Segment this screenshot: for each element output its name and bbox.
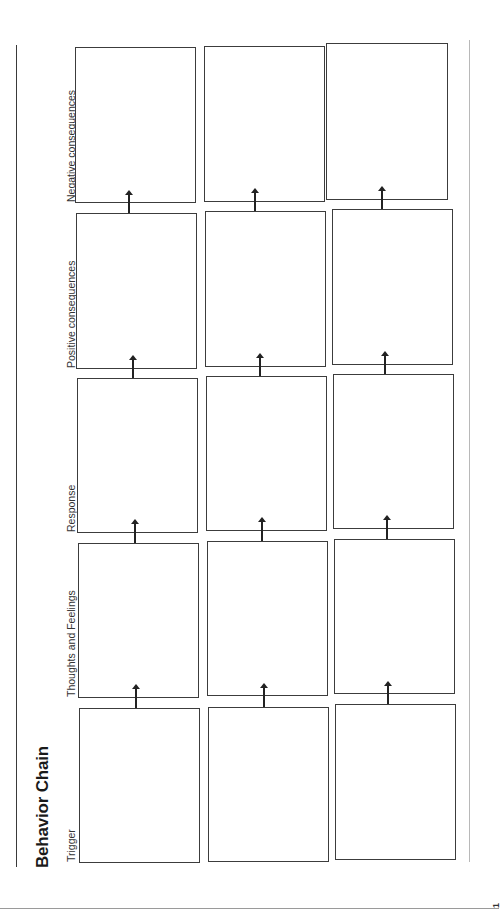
cell-row2-thoughts-feelings[interactable] [207, 541, 328, 696]
cell-row1-trigger[interactable] [79, 708, 200, 863]
left-divider-rule [16, 45, 17, 867]
arrow-up-icon [386, 519, 388, 539]
arrow-up-icon [134, 523, 136, 543]
cell-row2-response[interactable] [206, 376, 327, 531]
arrow-up-icon [384, 355, 386, 374]
cell-row3-negative-consequences[interactable] [326, 43, 448, 200]
arrow-up-icon [135, 688, 137, 708]
column-label-thoughts-feelings: Thoughts and Feelings [66, 590, 77, 697]
cell-row3-thoughts-feelings[interactable] [334, 539, 455, 694]
page-number: 1 [491, 903, 501, 908]
column-label-trigger: Trigger [66, 829, 77, 862]
right-margin-rule [469, 40, 470, 862]
cell-row1-thoughts-feelings[interactable] [78, 543, 199, 698]
arrow-up-icon [387, 685, 389, 704]
arrow-up-icon [259, 357, 261, 376]
arrow-up-icon [261, 521, 263, 541]
cell-row3-response[interactable] [333, 374, 454, 529]
cell-row1-response[interactable] [77, 378, 198, 533]
bottom-divider-rule [0, 908, 499, 909]
arrow-up-icon [381, 190, 383, 209]
arrow-up-icon [263, 687, 265, 707]
cell-row3-positive-consequences[interactable] [332, 209, 453, 365]
arrow-up-icon [254, 192, 256, 211]
arrow-up-icon [132, 359, 134, 378]
cell-row2-positive-consequences[interactable] [205, 211, 326, 367]
worksheet-title: Behavior Chain [34, 746, 51, 868]
column-label-response: Response [66, 485, 77, 532]
arrow-up-icon [128, 194, 130, 213]
cell-row3-trigger[interactable] [335, 704, 456, 860]
cell-row1-positive-consequences[interactable] [76, 213, 197, 369]
cell-row1-negative-consequences[interactable] [75, 47, 196, 203]
column-label-positive-consequences: Positive consequences [66, 261, 77, 368]
cell-row2-negative-consequences[interactable] [204, 46, 325, 202]
cell-row2-trigger[interactable] [208, 707, 329, 862]
